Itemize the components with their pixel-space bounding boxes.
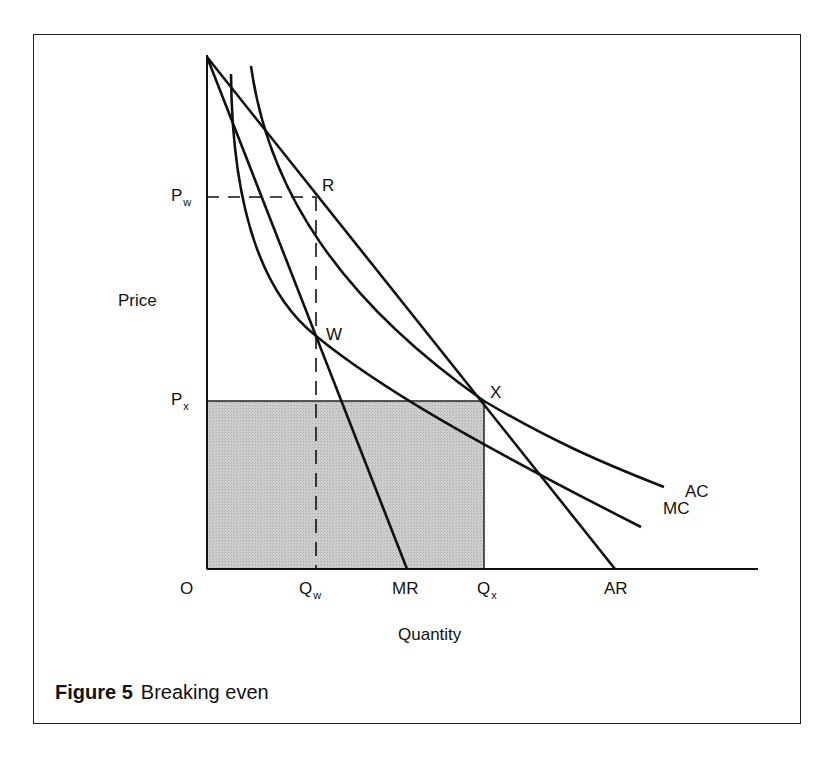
figure-caption: Figure 5Breaking even [55, 681, 269, 704]
px-label: Px [171, 391, 188, 408]
mr-label: MR [392, 580, 418, 597]
qx-label: Qx [477, 580, 496, 597]
origin-label: O [180, 580, 193, 597]
ac-label: AC [685, 483, 709, 500]
point-w-label: W [326, 326, 342, 343]
break-even-area [207, 401, 484, 569]
figure-title: Breaking even [141, 681, 269, 703]
ar-label: AR [604, 580, 628, 597]
pw-label: Pw [171, 187, 190, 204]
chart-canvas [0, 0, 828, 758]
mc-label: MC [663, 500, 689, 517]
x-axis-title: Quantity [398, 626, 461, 643]
point-x-label: X [490, 384, 501, 401]
y-axis-title: Price [118, 292, 157, 309]
point-r-label: R [322, 177, 334, 194]
qw-label: Qw [299, 580, 320, 597]
figure-number: Figure 5 [55, 681, 133, 703]
